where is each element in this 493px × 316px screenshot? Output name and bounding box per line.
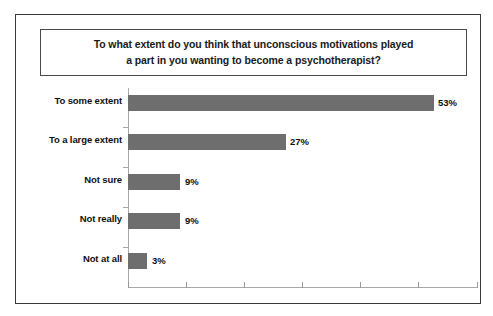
chart-title-line-1: To what extent do you think that unconsc… bbox=[94, 38, 414, 50]
page-title: To what extent do you think that unconsc… bbox=[88, 37, 420, 67]
chart-title-line-2: a part in you wanting to become a psycho… bbox=[126, 54, 381, 66]
chart-title-box: To what extent do you think that unconsc… bbox=[40, 29, 467, 76]
chart-figure: To what extent do you think that unconsc… bbox=[0, 0, 493, 316]
